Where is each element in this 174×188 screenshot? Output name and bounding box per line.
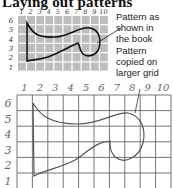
large-grid-column-labels: 12345678910 <box>21 82 170 93</box>
small-grid-cell <box>45 44 53 52</box>
small-grid-row-label: 3 <box>9 45 14 53</box>
small-grid-col-label: 1 <box>19 8 23 16</box>
leader-line-large <box>135 89 140 113</box>
small-grid-cell <box>100 44 108 52</box>
small-grid-cell <box>18 44 26 52</box>
small-grid-cell <box>45 63 53 71</box>
diagram: 12345678910 654321 12345678910 654321 <box>0 0 174 188</box>
small-grid-row-label: 1 <box>9 64 13 72</box>
small-grid-cell <box>100 63 108 71</box>
large-grid-row-label: 1 <box>5 175 12 188</box>
small-grid-row-label: 5 <box>9 26 14 34</box>
large-grid-row-label: 3 <box>5 144 12 157</box>
large-grid-col-label: 7 <box>114 82 121 93</box>
small-grid-col-label: 7 <box>74 8 79 16</box>
small-grid-cell <box>100 16 108 24</box>
small-grid-cell <box>27 16 35 24</box>
small-grid-cell <box>18 25 26 33</box>
small-grid-cell <box>18 16 26 24</box>
small-grid <box>18 16 108 71</box>
small-grid-col-label: 2 <box>28 8 33 16</box>
large-grid-col-label: 3 <box>52 82 58 93</box>
small-grid-cell <box>100 25 108 33</box>
small-grid-cell <box>64 63 72 71</box>
large-pattern-outline <box>33 103 144 176</box>
large-grid-row-labels: 654321 <box>4 97 12 188</box>
small-grid-cell <box>18 53 26 61</box>
small-grid-cell <box>73 16 81 24</box>
large-grid-row-label: 5 <box>5 113 12 126</box>
small-grid-col-label: 10 <box>99 8 107 16</box>
small-grid-cell <box>91 35 99 43</box>
small-grid-cell <box>64 16 72 24</box>
large-grid-col-label: 5 <box>83 82 89 93</box>
small-grid-cell <box>82 63 90 71</box>
small-grid-cell <box>36 25 44 33</box>
small-grid-cell <box>91 16 99 24</box>
small-grid-cell <box>64 25 72 33</box>
small-grid-cell <box>54 16 62 24</box>
small-grid-cell <box>27 35 35 43</box>
small-grid-row-labels: 654321 <box>8 17 14 72</box>
small-grid-cell <box>82 16 90 24</box>
small-grid-cell <box>82 25 90 33</box>
small-grid-cell <box>73 35 81 43</box>
small-grid-col-label: 3 <box>38 8 42 16</box>
large-grid-row-label: 4 <box>4 128 12 141</box>
small-grid-row-label: 4 <box>8 36 13 44</box>
small-grid-cell <box>82 44 90 52</box>
large-grid-col-label: 6 <box>98 82 105 93</box>
large-grid-col-label: 2 <box>36 82 43 93</box>
large-grid-col-label: 9 <box>145 82 152 93</box>
small-grid-cell <box>18 63 26 71</box>
large-grid-row-label: 2 <box>4 159 12 172</box>
small-grid-cell <box>36 44 44 52</box>
small-grid-cell <box>27 63 35 71</box>
small-grid-cell <box>64 53 72 61</box>
small-grid-cell <box>54 63 62 71</box>
small-grid-cell <box>100 53 108 61</box>
large-grid-col-label: 1 <box>21 82 27 93</box>
large-grid-col-label: 10 <box>157 82 170 93</box>
small-grid-row-label: 2 <box>8 54 14 62</box>
small-grid-cell <box>82 35 90 43</box>
large-grid-col-label: 4 <box>67 82 74 93</box>
small-grid-column-labels: 12345678910 <box>19 8 107 16</box>
large-grid-row-label: 6 <box>5 97 12 110</box>
small-grid-cell <box>36 63 44 71</box>
small-grid-cell <box>91 63 99 71</box>
small-grid-col-label: 8 <box>83 8 87 16</box>
small-grid-cell <box>45 35 53 43</box>
small-grid-cell <box>18 35 26 43</box>
small-grid-cell <box>45 25 53 33</box>
small-grid-col-label: 4 <box>46 8 51 16</box>
small-grid-cell <box>27 44 35 52</box>
small-grid-cell <box>73 53 81 61</box>
small-grid-cell <box>36 16 44 24</box>
small-grid-col-label: 6 <box>65 8 69 16</box>
small-grid-cell <box>73 63 81 71</box>
small-grid-col-label: 9 <box>92 8 96 16</box>
large-grid <box>17 95 171 188</box>
small-grid-col-label: 5 <box>56 8 60 16</box>
large-grid-col-label: 8 <box>129 82 135 93</box>
small-grid-cell <box>45 16 53 24</box>
small-grid-cell <box>54 25 62 33</box>
small-grid-row-label: 6 <box>9 17 14 25</box>
